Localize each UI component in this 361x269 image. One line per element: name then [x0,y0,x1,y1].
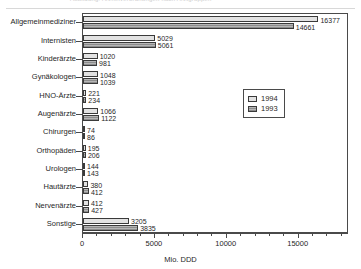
faded-header-text: Abbildung: Arzneiverordnungen nach Arztg… [70,0,212,2]
y-axis-tick [76,77,82,78]
y-axis-tick [76,41,82,42]
bar-value-label: 981 [99,60,111,67]
bar-1994-Kinderärzte [83,53,98,59]
bar-value-label: 221 [88,90,100,97]
category-label: Chirurgen [2,127,76,136]
bar-value-label: 16377 [320,17,339,24]
category-label: Augenärzte [2,109,76,118]
category-label: Hautärzte [2,182,76,191]
legend-item-1993: 1993 [248,104,278,113]
x-axis-tick-major [298,234,299,238]
bar-value-label: 5061 [158,42,174,49]
bar-1993-Gynäkologen [83,78,98,84]
bar-1993-Augenärzte [83,115,99,121]
x-axis-tick-minor [197,234,198,236]
bar-value-label: 74 [87,127,95,134]
x-axis-tick-minor [283,234,284,236]
bar-value-label: 1020 [100,53,116,60]
y-axis-tick [76,96,82,97]
y-axis-tick [76,224,82,225]
x-axis-tick-major [82,234,83,238]
x-axis-tick-minor [140,234,141,236]
legend-swatch-1994 [248,96,257,102]
bar-1994-Orthopäden [83,145,86,151]
bar-1994-Sonstige [83,218,129,224]
bar-1994-Urologen [83,163,85,169]
legend-swatch-1993 [248,106,257,112]
legend-label-1994: 1994 [261,94,278,103]
bar-value-label: 1066 [100,108,116,115]
bar-1994-Internisten [83,35,155,41]
x-axis-tick-minor [269,234,270,236]
x-axis-tick-label: 0 [80,239,84,248]
bar-value-label: 143 [87,170,99,177]
legend-label-1993: 1993 [261,104,278,113]
bar-value-label: 144 [87,163,99,170]
bar-value-label: 412 [91,189,103,196]
bar-1994-Allgemeinmediziner [83,16,318,22]
x-axis-tick-major [226,234,227,238]
x-axis-tick-minor [326,234,327,236]
category-label: Internisten [2,36,76,45]
x-axis-tick-minor [211,234,212,236]
bar-value-label: 86 [87,134,95,141]
bar-value-label: 380 [90,182,102,189]
x-axis-tick-minor [312,234,313,236]
x-axis-tick-minor [255,234,256,236]
bar-1993-Chirurgen [83,133,85,139]
bar-value-label: 206 [88,152,100,159]
x-axis-tick-minor [96,234,97,236]
x-axis-tick-minor [111,234,112,236]
x-axis-tick-minor [125,234,126,236]
y-axis-tick [76,187,82,188]
x-axis-tick-major [154,234,155,238]
bar-value-label: 234 [88,97,100,104]
bar-1993-Urologen [83,170,85,176]
bar-value-label: 3835 [140,225,156,232]
category-label: Allgemeinmediziner [2,17,76,26]
bar-value-label: 1048 [100,72,116,79]
bar-value-label: 412 [91,200,103,207]
bar-1993-HNO-Ärzte [83,97,86,103]
legend-item-1994: 1994 [248,94,278,103]
plot-area: 1637714661502950611020981104810392212341… [82,13,348,233]
bar-1994-Augenärzte [83,108,98,114]
y-axis-tick [76,132,82,133]
x-axis-tick-label: 5000 [146,239,163,248]
x-axis-tick-label: 10000 [215,239,236,248]
bar-chart: Abbildung: Arzneiverordnungen nach Arztg… [0,0,361,269]
y-axis-tick [76,206,82,207]
header-divider [6,8,355,9]
bar-value-label: 1122 [101,115,116,122]
bar-value-label: 427 [91,207,103,214]
y-axis-tick [76,59,82,60]
bar-1994-Nervenärzte [83,200,89,206]
category-label: Nervenärzte [2,201,76,210]
y-axis-tick [76,169,82,170]
bar-1993-Sonstige [83,225,138,231]
category-label: Urologen [2,164,76,173]
bar-1993-Hautärzte [83,188,89,194]
bar-1993-Internisten [83,42,156,48]
bar-1994-Gynäkologen [83,71,98,77]
y-axis-tick [76,151,82,152]
bar-1993-Kinderärzte [83,60,97,66]
bar-1993-Orthopäden [83,152,86,158]
category-label: Kinderärzte [2,54,76,63]
bar-value-label: 1039 [100,79,116,86]
bar-value-label: 5029 [157,35,173,42]
bar-1994-Chirurgen [83,126,85,132]
category-label: Orthopäden [2,146,76,155]
bar-1994-HNO-Ärzte [83,90,86,96]
category-label: Gynäkologen [2,72,76,81]
y-axis-tick [76,22,82,23]
bar-1993-Nervenärzte [83,207,89,213]
bar-1993-Allgemeinmediziner [83,23,294,29]
x-axis-line [82,233,348,234]
bar-1994-Hautärzte [83,181,88,187]
category-label: HNO-Ärzte [2,91,76,100]
x-axis-tick-label: 15000 [287,239,308,248]
bar-value-label: 14661 [296,24,315,31]
x-axis-tick-minor [341,234,342,236]
chart-legend: 1994 1993 [243,89,285,118]
